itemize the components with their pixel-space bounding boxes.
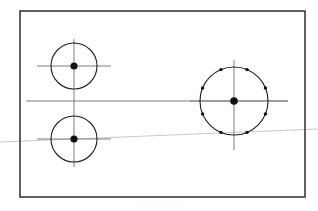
bolt-hole-dot-4 [245,131,248,134]
right-bolt-circle-center-dot [230,97,238,105]
bolt-hole-dot-1 [245,68,248,71]
bolt-hole-dot-6 [201,112,204,115]
bolt-hole-dot-8 [219,68,222,71]
drawing-canvas: ·· ·· ····· ·· ··· [0,0,318,211]
upper-left-hole-center-dot [70,62,77,69]
bolt-hole-dot-2 [264,86,267,89]
bolt-hole-dot-5 [219,131,222,134]
drawing-background [0,0,318,211]
caption-text: ·· ·· ····· ·· ··· [0,200,318,211]
bolt-hole-dot-7 [201,86,204,89]
bolt-hole-dot-3 [264,112,267,115]
lower-left-hole-center-dot [70,135,77,142]
technical-drawing-svg [0,0,318,211]
